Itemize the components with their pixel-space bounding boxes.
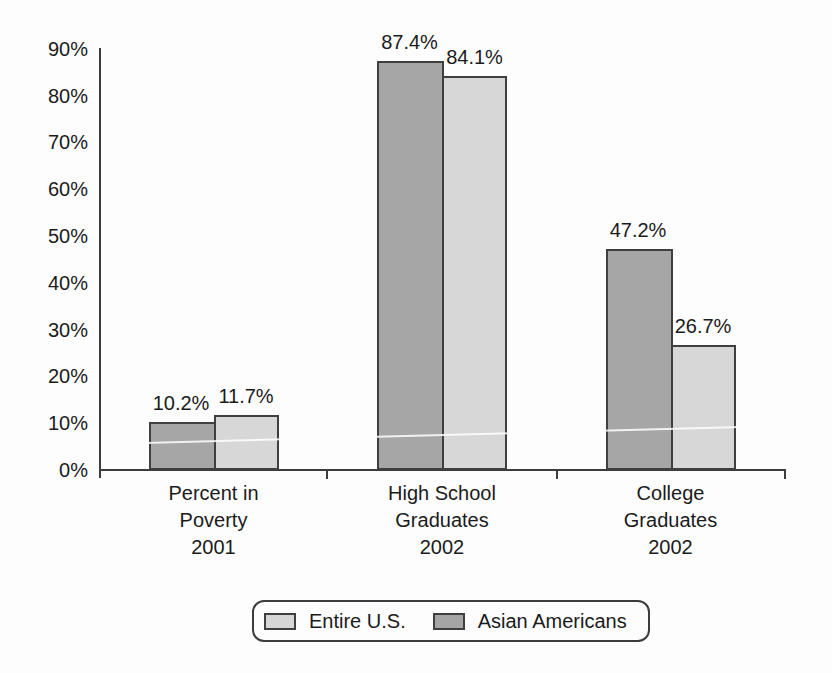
y-axis-tick-label: 10% [0, 412, 88, 434]
y-axis-tick-label: 0% [0, 459, 88, 481]
category-label-high-school: High School Graduates 2002 [388, 480, 496, 561]
bar-value-label: 47.2% [610, 219, 667, 241]
legend-item: Asian Americans [433, 610, 627, 632]
bar-entire-u-s [442, 76, 507, 470]
bar-asian-americans [149, 422, 216, 470]
x-axis-tick [556, 470, 558, 479]
y-axis-tick-label: 60% [0, 178, 88, 200]
y-axis-tick-label: 30% [0, 319, 88, 341]
bar-value-label: 11.7% [218, 385, 273, 407]
legend: Entire U.S. Asian Americans [252, 600, 650, 642]
legend-item: Entire U.S. [264, 610, 406, 632]
y-axis-line [99, 48, 101, 478]
legend-swatch-entire-us [264, 613, 296, 630]
bar-entire-u-s [214, 415, 279, 470]
bar-value-label: 26.7% [675, 315, 732, 337]
bar-value-label: 10.2% [153, 392, 210, 414]
y-axis-tick-label: 50% [0, 225, 88, 247]
y-axis-tick-label: 70% [0, 131, 88, 153]
x-axis-tick [784, 470, 786, 479]
bar-asian-americans [377, 61, 444, 470]
legend-label-entire-us: Entire U.S. [309, 610, 406, 632]
legend-label-asian-americans: Asian Americans [478, 610, 627, 632]
bar-chart-figure: 0%10%20%30%40%50%60%70%80%90% 10.2%11.7%… [0, 0, 832, 673]
y-axis-tick-label: 40% [0, 272, 88, 294]
y-axis-tick-label: 80% [0, 85, 88, 107]
y-axis-tick-label: 20% [0, 365, 88, 387]
bar-value-label: 84.1% [446, 46, 503, 68]
y-axis-tick-label: 90% [0, 38, 88, 60]
bar-asian-americans [606, 249, 673, 470]
x-axis-tick [326, 470, 328, 479]
legend-swatch-asian-americans [433, 613, 465, 630]
bar-value-label: 87.4% [381, 31, 438, 53]
bar-entire-u-s [671, 345, 736, 470]
category-label-college: College Graduates 2002 [624, 480, 717, 561]
category-label-percent-in: Percent in Poverty 2001 [168, 480, 258, 561]
